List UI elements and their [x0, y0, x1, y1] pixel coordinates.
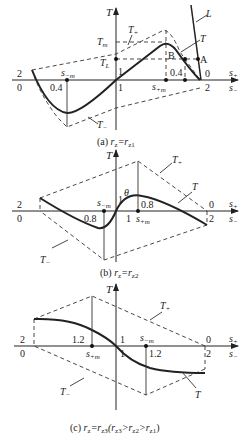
- t-minus-curve: [40, 211, 207, 260]
- panel-c: T T+ T T− 2 0 0 2 1 1 1.2 s+m 1.2 s−m s+…: [14, 283, 238, 435]
- leader-t-minus: [70, 378, 84, 386]
- left-point-label: s−m: [97, 197, 111, 210]
- leader-t-minus: [52, 240, 68, 248]
- right-top-tick: 0: [206, 334, 211, 345]
- left-point-value: 1.2: [72, 334, 85, 345]
- caption-c: (c) rz=rz3(rz3>rz2>rz1): [70, 422, 160, 435]
- panel-a: T Tm TL T+ T L B A T− 2 0 0 2 1 1 0.4 s−…: [12, 5, 238, 149]
- right-top-tick: 0: [209, 199, 214, 210]
- t-plus-label: T+: [160, 300, 171, 313]
- leader-t: [182, 372, 196, 388]
- center-top-tick: 1: [120, 334, 125, 345]
- right-bottom-tick: 2: [206, 348, 211, 359]
- s-dot: [183, 78, 187, 82]
- s-plus-m-dot: [90, 344, 94, 348]
- right-bottom-tick: 2: [205, 82, 210, 93]
- t-plus-curve: [40, 161, 207, 211]
- right-point-value: 1.2: [149, 348, 162, 359]
- left-point-value: 0.8: [84, 213, 97, 224]
- l-curve-label: L: [205, 8, 212, 19]
- t-plus-label: T+: [172, 154, 183, 167]
- y-axis-label: T: [106, 283, 113, 295]
- right-top-tick: 0: [205, 68, 210, 79]
- t-plus-label: T+: [128, 24, 139, 37]
- y-axis-label: T: [106, 6, 113, 18]
- left-top-tick: 2: [20, 334, 25, 345]
- tl-label: TL: [100, 57, 110, 70]
- center-bottom-tick: 1: [120, 348, 125, 359]
- leader-t: [178, 192, 192, 203]
- left-top-tick: 2: [17, 199, 22, 210]
- t-curve-label: T: [192, 181, 199, 192]
- center-bottom-tick: 1: [118, 82, 123, 93]
- caption-a: (a) rz=rz1: [97, 136, 135, 149]
- right-bottom-tick: 2: [209, 213, 214, 224]
- torque-slip-diagrams: T Tm TL T+ T L B A T− 2 0 0 2 1 1 0.4 s−…: [0, 0, 252, 438]
- y-axis-label: T: [106, 149, 113, 161]
- left-point-value: 0.4: [50, 82, 63, 93]
- a-label: A: [200, 54, 208, 65]
- x-axis-label-bottom: s−: [229, 82, 238, 95]
- left-bottom-tick: 0: [17, 213, 22, 224]
- x-axis-label-bottom: s−: [229, 348, 238, 361]
- caption-b: (b) rz=rz2: [100, 267, 139, 280]
- center-top-tick: 1: [118, 66, 123, 77]
- panel-b: T T+ T T− θ 2 0 0 2 1 1 0.8 s−m 0.8 s+m …: [12, 149, 238, 280]
- tl-dot: [114, 57, 118, 61]
- x-axis-label-bottom: s−: [229, 213, 238, 226]
- t-curve-label: T: [195, 389, 202, 400]
- t-curve-label: T: [200, 33, 207, 44]
- right-point-label: s+m: [152, 81, 166, 94]
- x-axis-label-top: s+: [229, 333, 238, 346]
- center-top-tick: 1: [118, 194, 123, 205]
- leader-t-plus: [128, 35, 132, 45]
- left-point-label: s−m: [61, 67, 75, 80]
- t-minus-label: T−: [60, 386, 71, 399]
- right-point-value: 0.8: [141, 199, 154, 210]
- t-minus-label: T−: [40, 254, 51, 267]
- theta-label: θ: [124, 187, 129, 198]
- right-point-value: 0.4: [170, 67, 183, 78]
- left-point-label: s+m: [86, 348, 100, 361]
- leader-t-plus: [160, 163, 172, 173]
- left-bottom-tick: 0: [17, 82, 22, 93]
- center-bottom-tick: 1: [126, 213, 131, 224]
- leader-t-plus: [150, 312, 162, 320]
- s-plus-m-dot: [164, 78, 168, 82]
- left-top-tick: 2: [17, 68, 22, 79]
- b-label: B: [168, 50, 175, 61]
- b-operating-dot: [183, 57, 187, 61]
- right-point-label: s+m: [136, 213, 150, 226]
- right-point-label: s−m: [140, 332, 154, 345]
- x-axis-label-top: s+: [229, 198, 238, 211]
- x-axis-label-top: s+: [229, 67, 238, 80]
- left-bottom-tick: 0: [20, 348, 25, 359]
- tm-label: Tm: [97, 36, 108, 49]
- t-minus-label: T−: [97, 119, 108, 132]
